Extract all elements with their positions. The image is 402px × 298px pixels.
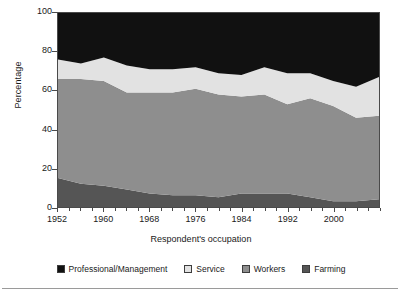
legend-swatch-icon <box>302 265 310 273</box>
legend-swatch-icon <box>242 265 250 273</box>
x-tick-mark-minor <box>253 208 254 211</box>
x-tick-mark-minor <box>322 208 323 211</box>
legend-item: Workers <box>242 264 286 274</box>
y-tick-mark <box>52 12 57 13</box>
chart-legend: Professional/ManagementServiceWorkersFar… <box>0 264 402 274</box>
x-tick-label: 1976 <box>175 214 215 224</box>
plot-area <box>57 12 380 208</box>
x-tick-mark-minor <box>345 208 346 211</box>
footer-divider <box>2 288 398 289</box>
x-axis-title: Respondent's occupation <box>0 234 402 244</box>
x-tick-label: 1960 <box>83 214 123 224</box>
x-tick-mark-minor <box>126 208 127 211</box>
x-tick-mark-minor <box>299 208 300 211</box>
y-tick-mark <box>52 90 57 91</box>
legend-item: Farming <box>302 264 345 274</box>
x-tick-mark-minor <box>276 208 277 211</box>
x-tick-mark-minor <box>92 208 93 211</box>
legend-label: Workers <box>254 264 286 274</box>
x-tick-mark <box>149 208 150 212</box>
x-tick-mark <box>103 208 104 212</box>
stacked-area-chart-figure: Percentage 020406080100 1952196019681976… <box>0 0 402 298</box>
legend-label: Service <box>196 264 224 274</box>
x-tick-label: 1952 <box>37 214 77 224</box>
legend-item: Service <box>184 264 224 274</box>
legend-swatch-icon <box>184 265 192 273</box>
x-tick-mark-minor <box>368 208 369 211</box>
stacked-area-paths <box>58 13 379 207</box>
y-tick-mark <box>52 130 57 131</box>
x-tick-mark-minor <box>265 208 266 211</box>
x-tick-mark <box>57 208 58 212</box>
x-tick-mark-minor <box>311 208 312 211</box>
x-tick-mark <box>195 208 196 212</box>
x-tick-mark-minor <box>80 208 81 211</box>
x-tick-mark <box>242 208 243 212</box>
x-tick-mark-minor <box>138 208 139 211</box>
x-tick-label: 1992 <box>268 214 308 224</box>
x-tick-mark-minor <box>380 208 381 211</box>
x-tick-label: 1968 <box>129 214 169 224</box>
x-tick-label: 1984 <box>222 214 262 224</box>
x-tick-mark-minor <box>115 208 116 211</box>
legend-swatch-icon <box>57 265 65 273</box>
x-tick-mark-minor <box>357 208 358 211</box>
x-tick-mark-minor <box>219 208 220 211</box>
x-tick-label: 2000 <box>314 214 354 224</box>
y-tick-mark <box>52 51 57 52</box>
y-tick-mark <box>52 169 57 170</box>
x-tick-mark <box>334 208 335 212</box>
x-tick-mark-minor <box>207 208 208 211</box>
x-tick-mark <box>288 208 289 212</box>
x-tick-mark-minor <box>184 208 185 211</box>
legend-label: Farming <box>314 264 345 274</box>
legend-item: Professional/Management <box>57 264 168 274</box>
x-tick-mark-minor <box>230 208 231 211</box>
x-tick-mark-minor <box>161 208 162 211</box>
legend-label: Professional/Management <box>69 264 168 274</box>
x-tick-mark-minor <box>69 208 70 211</box>
x-tick-mark-minor <box>172 208 173 211</box>
y-tick-mark <box>52 208 57 209</box>
